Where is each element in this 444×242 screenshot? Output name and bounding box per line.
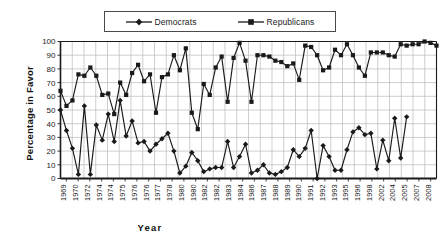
- x-tick-label: 1975: [118, 185, 127, 201]
- x-tick-label: 1990: [294, 185, 303, 201]
- x-tick-label: 1980: [177, 185, 186, 201]
- y-tick-label: 90: [47, 51, 56, 60]
- y-tick-label: 60: [47, 92, 56, 101]
- x-tick-label: 1982: [212, 185, 221, 201]
- x-tick-label: 1976: [142, 185, 151, 201]
- x-tick-label: 1974: [95, 185, 104, 201]
- x-tick-label: 2004: [388, 185, 397, 201]
- y-tick-label: 30: [47, 133, 56, 142]
- y-tick-label: 10: [47, 161, 56, 170]
- x-tick-label: 2007: [412, 185, 421, 201]
- x-tick-label: 1980: [189, 185, 198, 201]
- x-tick-label: 1976: [130, 185, 139, 201]
- x-tick-label: 1972: [83, 185, 92, 201]
- x-tick-label: 2008: [424, 185, 433, 201]
- x-tick-label: 1991: [306, 185, 315, 201]
- y-tick-label: 20: [47, 147, 56, 156]
- x-tick-label: 2005: [400, 185, 409, 201]
- y-tick-label: 50: [47, 106, 56, 115]
- x-tick-label: 1974: [106, 185, 115, 201]
- plot-canvas: 0102030405060708090100196919701972197419…: [0, 0, 444, 242]
- x-tick-label: 1987: [259, 185, 268, 201]
- x-tick-label: 1970: [71, 185, 80, 201]
- x-tick-label: 1978: [165, 185, 174, 201]
- x-tick-label: 1988: [271, 185, 280, 201]
- y-tick-label: 0: [51, 174, 56, 183]
- x-tick-label: 1969: [59, 185, 68, 201]
- x-tick-label: 1984: [236, 185, 245, 201]
- x-tick-label: 1982: [200, 185, 209, 201]
- y-tick-label: 100: [42, 37, 56, 46]
- x-tick-label: 1986: [247, 185, 256, 201]
- x-tick-label: 1998: [365, 185, 374, 201]
- y-tick-label: 80: [47, 65, 56, 74]
- x-tick-label: 1993: [330, 185, 339, 201]
- x-tick-label: 1989: [283, 185, 292, 201]
- chart-figure: Democrats Republicans Percentage in Favo…: [0, 0, 444, 242]
- x-tick-label: 1983: [224, 185, 233, 201]
- x-tick-label: 1977: [153, 185, 162, 201]
- x-tick-label: 1992: [318, 185, 327, 201]
- x-tick-label: 1995: [341, 185, 350, 201]
- y-tick-label: 40: [47, 120, 56, 129]
- x-tick-label: 2002: [377, 185, 386, 201]
- y-tick-label: 70: [47, 79, 56, 88]
- x-tick-label: 1996: [353, 185, 362, 201]
